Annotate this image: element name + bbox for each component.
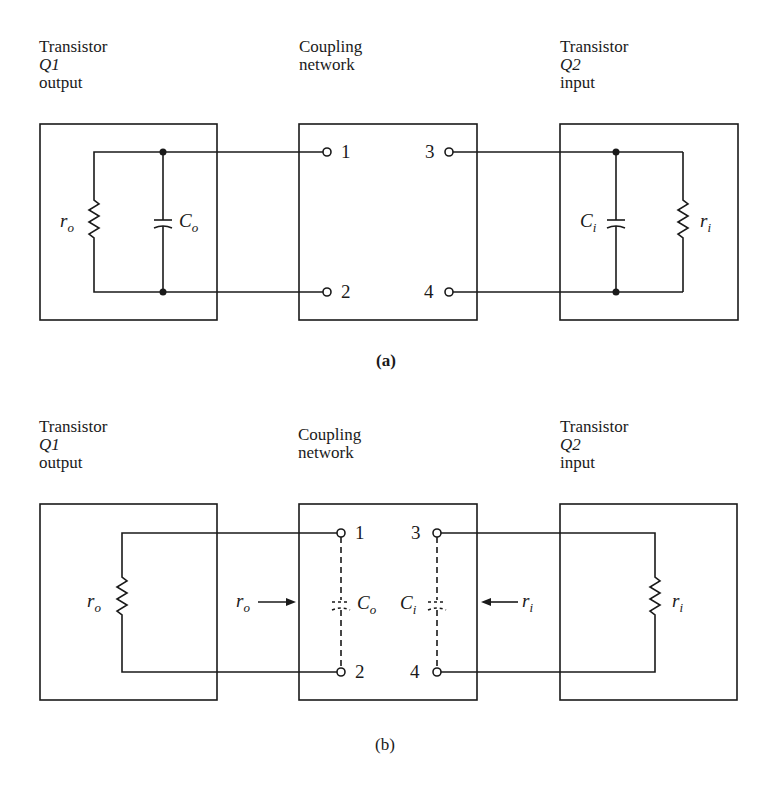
panel-a-ci-label: Ci xyxy=(580,212,596,237)
panel-b-ci-dashed-capacitor-icon xyxy=(428,537,446,668)
panel-b-ri-arrow-icon xyxy=(481,598,518,606)
panel-a-terminal-3-label: 3 xyxy=(425,143,435,161)
panel-b-ro-arrow-icon xyxy=(258,598,296,606)
panel-b-terminal-4-label: 4 xyxy=(410,663,420,681)
panel-a-terminal-1-label: 1 xyxy=(341,143,351,161)
panel-a-caption: (a) xyxy=(376,352,396,370)
panel-b-terminal-1-label: 1 xyxy=(355,524,365,542)
panel-a-co-capacitor-icon xyxy=(154,152,172,292)
panel-a-junction-dot xyxy=(160,289,167,296)
panel-b-ci-label: Ci xyxy=(400,594,416,619)
panel-b-terminal-4 xyxy=(433,668,441,676)
panel-a-ro-resistor-icon xyxy=(89,152,163,292)
panel-a-junction-dot xyxy=(613,289,620,296)
panel-a-ro-label: ro xyxy=(60,212,74,237)
panel-b-terminal-1 xyxy=(337,529,345,537)
panel-a-terminal-2 xyxy=(323,288,331,296)
panel-a-ri-label: ri xyxy=(700,212,711,237)
panel-a-terminal-4 xyxy=(445,288,453,296)
panel-b-terminal-2-label: 2 xyxy=(355,663,365,681)
panel-a-junction-dot xyxy=(613,149,620,156)
panel-a-ci-capacitor-icon xyxy=(607,152,625,292)
panel-a-terminal-1 xyxy=(323,148,331,156)
panel-b-ri-resistor-icon xyxy=(441,533,660,672)
panel-a-ri-resistor-icon xyxy=(678,152,688,292)
panel-a-terminal-4-label: 4 xyxy=(424,283,434,301)
panel-b-terminal-3-label: 3 xyxy=(411,524,421,542)
panel-b-co-dashed-capacitor-icon xyxy=(332,537,350,668)
panel-a-junction-dot xyxy=(160,149,167,156)
panel-a-terminal-3 xyxy=(445,148,453,156)
panel-b-terminal-2 xyxy=(337,668,345,676)
circuit-diagram xyxy=(0,0,773,787)
panel-b-caption: (b) xyxy=(375,736,395,754)
panel-b-ri-label: ri xyxy=(672,592,683,617)
panel-b-terminal-3 xyxy=(433,529,441,537)
panel-b-co-label: Co xyxy=(357,594,376,619)
panel-b-ro-arrow-label: ro xyxy=(236,592,250,617)
panel-b-ri-arrow-label: ri xyxy=(522,592,533,617)
panel-b-ro-label: ro xyxy=(87,592,101,617)
panel-a-terminal-2-label: 2 xyxy=(341,283,351,301)
panel-b-ro-resistor-icon xyxy=(117,533,337,672)
panel-a-co-label: Co xyxy=(179,212,198,237)
